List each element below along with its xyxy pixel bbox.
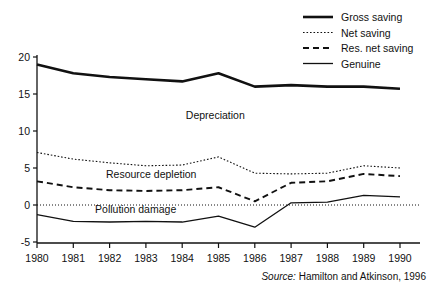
legend-label-gross-saving: Gross saving [341,11,402,23]
legend-label-net-saving: Net saving [341,27,391,39]
chart-annotations-layer: DepreciationResource depletionPollution … [95,109,245,215]
chart-series-layer [37,64,400,227]
x-tick-label: 1990 [388,252,412,264]
y-tick-label: 5 [24,162,30,174]
chart-container: -505101520 19801981198219831984198519861… [0,0,434,290]
x-tick-label: 1985 [207,252,231,264]
series-line-net-saving [37,152,400,173]
y-tick-label: 20 [18,51,30,63]
y-tick-label: 10 [18,125,30,137]
y-tick-label: 15 [18,88,30,100]
x-tick-label: 1989 [352,252,376,264]
y-tick-label: -5 [21,236,30,248]
x-tick-label: 1983 [134,252,158,264]
legend-label-res-net-saving: Res. net saving [341,42,414,54]
source-text: Hamilton and Atkinson, 1996 [299,271,426,282]
x-tick-label: 1987 [279,252,303,264]
series-line-genuine [37,195,400,227]
chart-legend: Gross savingNet savingRes. net savingGen… [303,11,414,70]
x-axis-tick-labels: 1980198119821983198419851986198719881989… [25,252,412,264]
annotation-resource-depletion: Resource depletion [106,168,197,180]
y-axis-tick-labels: -505101520 [18,51,30,248]
y-tick-label: 0 [24,199,30,211]
series-line-res-net-saving [37,174,400,201]
x-tick-label: 1982 [98,252,122,264]
legend-label-genuine: Genuine [341,58,381,70]
x-tick-label: 1986 [243,252,267,264]
annotation-depreciation: Depreciation [186,109,245,121]
x-tick-label: 1981 [62,252,86,264]
annotation-pollution-damage: Pollution damage [95,203,176,215]
line-chart-svg: -505101520 19801981198219831984198519861… [0,0,434,290]
x-tick-label: 1984 [171,252,195,264]
x-tick-label: 1988 [316,252,340,264]
source-prefix: Source: [261,271,295,282]
source-note: Source: Hamilton and Atkinson, 1996 [261,271,426,282]
x-axis-ticks [37,243,400,248]
x-tick-label: 1980 [25,252,49,264]
